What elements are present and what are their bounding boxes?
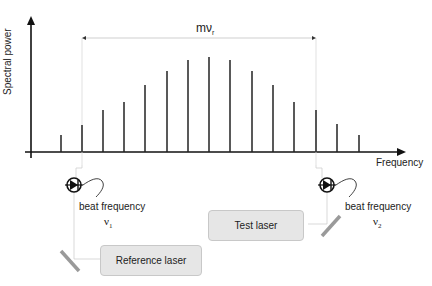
left-beat-frequency-label: beat frequency xyxy=(79,201,145,212)
reference-laser-box: Reference laser xyxy=(100,245,202,276)
reference-laser-label: Reference laser xyxy=(116,255,187,266)
y-axis-arrow-icon xyxy=(27,16,35,25)
test-laser-box: Test laser xyxy=(208,210,304,241)
test-mirror-icon xyxy=(322,216,340,236)
test-laser-label: Test laser xyxy=(235,220,278,231)
left-photodiode-icon xyxy=(65,178,103,197)
right-beat-frequency-symbol: ν2 xyxy=(373,215,381,230)
span-bracket xyxy=(82,36,316,165)
comb-lines xyxy=(61,57,359,152)
x-axis-arrow-icon xyxy=(397,148,406,156)
span-label-base: mν xyxy=(196,21,212,35)
span-arrow-right-icon xyxy=(312,36,316,40)
nu-subscript: 1 xyxy=(109,222,113,230)
span-label: mνr xyxy=(196,21,214,36)
right-photodiode-icon xyxy=(318,178,356,197)
reference-mirror-icon xyxy=(61,251,79,271)
left-beat-frequency-symbol: ν1 xyxy=(104,215,112,230)
right-beat-frequency-label: beat frequency xyxy=(345,201,411,212)
frequency-comb-diagram xyxy=(0,0,432,286)
x-axis-label: Frequency xyxy=(376,157,423,168)
y-axis-label: Spectral power xyxy=(2,28,13,95)
span-arrow-left-icon xyxy=(82,36,86,40)
nu-subscript: 2 xyxy=(378,222,382,230)
span-label-subscript: r xyxy=(212,29,214,36)
